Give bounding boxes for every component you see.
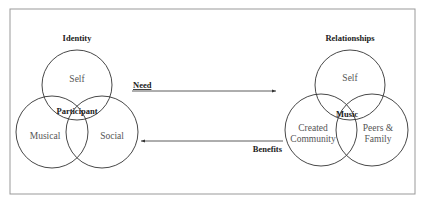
self-label-right: Self — [342, 73, 358, 83]
self-label: Self — [69, 74, 85, 84]
benefits-label: Benefits — [253, 144, 283, 154]
peers-label-line2: Family — [365, 134, 392, 144]
created-label-line1: Created — [298, 123, 328, 133]
social-label: Social — [100, 131, 124, 141]
musical-label: Musical — [30, 131, 61, 141]
identity-title: Identity — [63, 33, 93, 43]
relationships-title: Relationships — [325, 33, 375, 43]
benefits-arrow: Benefits — [141, 141, 283, 154]
relationships-venn: Relationships Self Created Community Pee… — [285, 33, 408, 166]
diagram-canvas: Identity Self Musical Social Participant… — [0, 0, 424, 203]
created-label-line2: Community — [290, 134, 336, 144]
identity-venn: Identity Self Musical Social Participant — [16, 33, 138, 168]
peers-label-line1: Peers & — [363, 123, 394, 133]
need-label: Need — [133, 80, 152, 90]
music-label: Music — [336, 109, 358, 119]
need-arrow: Need — [132, 80, 276, 91]
participant-label: Participant — [56, 106, 97, 116]
